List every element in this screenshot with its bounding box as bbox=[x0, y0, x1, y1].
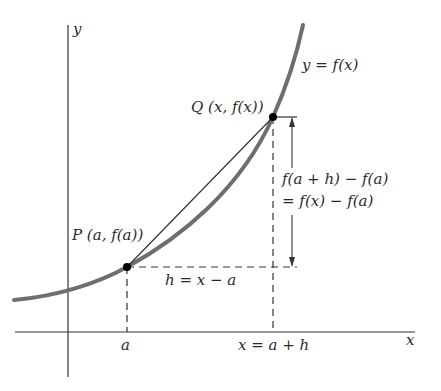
curve-label: y = f(x) bbox=[302, 58, 358, 73]
curve-f bbox=[14, 25, 303, 300]
secant-diagram: y x y = f(x) Q (x, f(x)) P (a, f(a)) h =… bbox=[0, 0, 441, 391]
point-p bbox=[123, 263, 131, 271]
y-axis-label: y bbox=[73, 22, 81, 37]
vertical-gap-label-1: f(a + h) − f(a) bbox=[282, 172, 388, 187]
diagram-canvas bbox=[0, 0, 441, 391]
x-axis-label: x bbox=[406, 333, 414, 348]
tick-label-a: a bbox=[121, 338, 130, 353]
point-q bbox=[269, 113, 277, 121]
arrow-up-head bbox=[289, 117, 295, 127]
vertical-gap-label-2: = f(x) − f(a) bbox=[282, 194, 373, 209]
arrow-down-head bbox=[289, 257, 295, 267]
secant-line bbox=[127, 117, 273, 267]
point-p-label: P (a, f(a)) bbox=[72, 228, 143, 243]
h-gap-label: h = x − a bbox=[165, 273, 236, 288]
point-q-label: Q (x, f(x)) bbox=[191, 100, 263, 115]
tick-label-x: x = a + h bbox=[238, 338, 309, 353]
